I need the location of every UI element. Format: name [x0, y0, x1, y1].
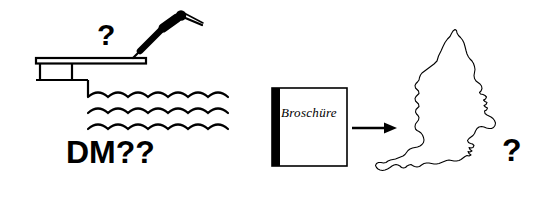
price-label-dm: DM?? — [66, 136, 155, 168]
diagram-canvas: ? DM?? Broschüre ? — [0, 0, 549, 207]
brochure — [272, 88, 347, 166]
question-mark-diving: ? — [97, 20, 115, 50]
brochure-spine — [272, 88, 280, 166]
brochure-title: Broschüre — [281, 106, 337, 119]
question-mark-map: ? — [502, 134, 522, 166]
diagram-artwork — [0, 0, 549, 207]
